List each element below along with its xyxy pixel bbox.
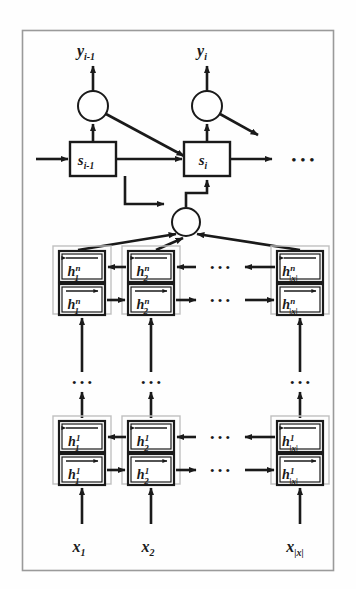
encoder-cell-backward-1-1 [59,421,105,452]
encoder-cell-backward-n-2 [128,251,174,282]
encoder-vertical-ellipsis-col-n: • • • [290,375,310,390]
encoder-backward-n-ellipsis: • • • [210,260,230,275]
encoder-cell-forward-1-1 [59,454,105,485]
output-node-y-prev [78,91,108,121]
decoder-ellipsis: • • • [291,152,314,168]
diagram-svg: • • • • • • • • • • • • • • • • • • • • … [0,0,356,589]
encoder-cell-backward-n-1 [59,251,105,282]
encoder-cell-forward-1-2 [128,454,174,485]
output-node-y-curr [192,91,222,121]
encoder-cell-forward-n-1 [59,284,105,315]
figure-canvas: • • • • • • • • • • • • • • • • • • • • … [0,0,356,589]
encoder-vertical-ellipsis-col-2: • • • [141,375,161,390]
encoder-cell-backward-1-2 [128,421,174,452]
encoder-forward-n-ellipsis: • • • [210,293,230,308]
encoder-backward-1-ellipsis: • • • [210,430,230,445]
encoder-vertical-ellipsis-col-1: • • • [72,375,92,390]
encoder-forward-1-ellipsis: • • • [210,463,230,478]
encoder-cell-forward-n-2 [128,284,174,315]
attention-node [172,208,200,236]
